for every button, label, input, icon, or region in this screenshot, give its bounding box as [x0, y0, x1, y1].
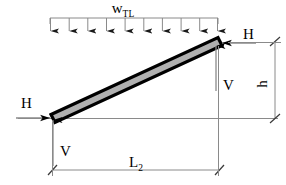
left-vertical-reaction-label: V: [60, 143, 71, 159]
diagram-canvas: wTL H V H V L2 h: [0, 0, 286, 185]
height-dimension-group: [228, 37, 281, 123]
left-horizontal-reaction-label: H: [21, 95, 32, 111]
distributed-load-label-base: w: [112, 0, 123, 16]
inclined-beam: [51, 38, 222, 123]
distributed-load-label-subscript: TL: [123, 9, 135, 19]
span-dimension-label: L2: [129, 154, 143, 173]
right-support-reactions: [216, 43, 256, 91]
left-support-reactions: [16, 118, 53, 166]
free-body-diagram: wTL H V H V L2 h: [0, 0, 286, 185]
span-dimension-label-base: L: [129, 154, 138, 170]
span-dimension-label-subscript: 2: [138, 163, 143, 173]
right-horizontal-reaction-label: H: [243, 26, 254, 42]
distributed-load-label: wTL: [112, 0, 135, 19]
right-vertical-reaction-label: V: [223, 77, 234, 93]
height-dimension-label: h: [254, 80, 270, 88]
distributed-load-group: [50, 18, 218, 31]
